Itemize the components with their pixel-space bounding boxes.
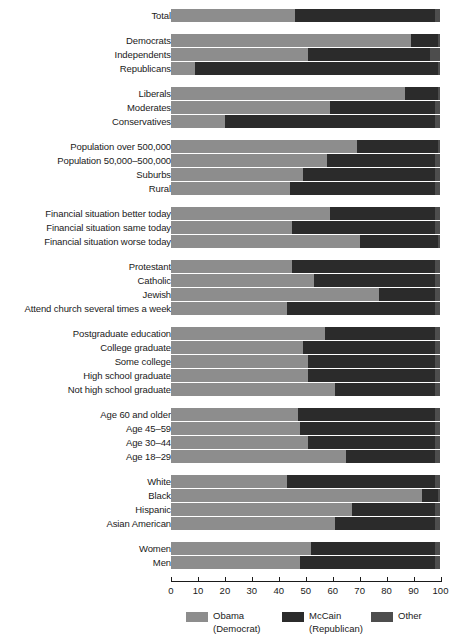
bar-segment-mccain xyxy=(335,517,435,530)
bar-segment-mccain xyxy=(303,341,435,354)
bar-row: Age 18–29 xyxy=(0,450,454,463)
bar-row: Men xyxy=(0,556,454,569)
bar-segment-obama xyxy=(171,101,330,114)
bar-row-label: Financial situation better today xyxy=(45,207,171,220)
bar-group-gender: WomenMen xyxy=(0,542,454,570)
bar-segment-mccain xyxy=(311,542,435,555)
bar-row: Population 50,000–500,000 xyxy=(0,154,454,167)
bar-segment-mccain xyxy=(335,383,435,396)
stacked-bar xyxy=(171,140,441,153)
bar-segment-mccain xyxy=(292,260,435,273)
stacked-bar xyxy=(171,87,441,100)
bar-row-label: White xyxy=(147,475,171,488)
bar-segment-obama xyxy=(171,48,308,61)
legend-label: McCain xyxy=(309,610,341,622)
bar-segment-other xyxy=(435,260,440,273)
bar-segment-obama xyxy=(171,9,295,22)
bar-row: Suburbs xyxy=(0,168,454,181)
bar-row-label: Rural xyxy=(149,182,171,195)
bar-row: Age 30–44 xyxy=(0,436,454,449)
x-axis xyxy=(171,581,441,582)
bar-row-label: Financial situation worse today xyxy=(44,235,171,248)
bar-segment-mccain xyxy=(295,9,435,22)
bar-segment-other xyxy=(435,408,440,421)
bar-segment-obama xyxy=(171,140,357,153)
x-tick-label: 40 xyxy=(264,585,294,596)
x-tick-label: 60 xyxy=(318,585,348,596)
bar-row: Black xyxy=(0,489,454,502)
bar-segment-mccain xyxy=(330,207,435,220)
bar-row: High school graduate xyxy=(0,369,454,382)
bar-segment-obama xyxy=(171,327,325,340)
bar-row-label: Attend church several times a week xyxy=(24,302,171,315)
bar-segment-other xyxy=(438,140,441,153)
stacked-bar xyxy=(171,182,441,195)
stacked-bar xyxy=(171,450,441,463)
bar-row-label: Age 18–29 xyxy=(126,450,171,463)
bar-segment-mccain xyxy=(308,369,435,382)
bar-segment-other xyxy=(435,517,440,530)
legend-label: Obama xyxy=(213,610,244,622)
bar-row-label: High school graduate xyxy=(83,369,171,382)
x-tick-label: 0 xyxy=(156,585,186,596)
x-tick-label: 70 xyxy=(345,585,375,596)
bar-segment-other xyxy=(430,48,441,61)
x-tick-label: 10 xyxy=(183,585,213,596)
bar-segment-obama xyxy=(171,517,335,530)
bar-group-community: Population over 500,000Population 50,000… xyxy=(0,140,454,196)
bar-segment-mccain xyxy=(346,450,435,463)
stacked-bar xyxy=(171,341,441,354)
bar-segment-other xyxy=(435,422,440,435)
stacked-bar xyxy=(171,302,441,315)
bar-segment-obama xyxy=(171,115,225,128)
stacked-bar xyxy=(171,168,441,181)
bar-segment-obama xyxy=(171,274,314,287)
stacked-bar xyxy=(171,422,441,435)
x-tick xyxy=(387,577,388,582)
bar-segment-other xyxy=(435,154,440,167)
bar-row: Protestant xyxy=(0,260,454,273)
bar-segment-mccain xyxy=(195,62,438,75)
bar-row: Independents xyxy=(0,48,454,61)
bar-row-label: College graduate xyxy=(100,341,171,354)
legend-sublabel: (Republican) xyxy=(309,623,363,635)
bar-row-label: Age 60 and older xyxy=(100,408,171,421)
bar-segment-obama xyxy=(171,422,300,435)
stacked-bar xyxy=(171,62,441,75)
x-tick xyxy=(252,577,253,582)
stacked-bar xyxy=(171,327,441,340)
bar-segment-mccain xyxy=(422,489,438,502)
bar-segment-mccain xyxy=(287,475,435,488)
x-tick xyxy=(306,577,307,582)
x-tick xyxy=(360,577,361,582)
bar-row: Republicans xyxy=(0,62,454,75)
bar-row: Financial situation same today xyxy=(0,221,454,234)
stacked-bar xyxy=(171,408,441,421)
stacked-bar xyxy=(171,355,441,368)
bar-segment-obama xyxy=(171,62,195,75)
bar-group-financial: Financial situation better todayFinancia… xyxy=(0,207,454,249)
stacked-bar xyxy=(171,556,441,569)
bar-row: Age 45–59 xyxy=(0,422,454,435)
stacked-bar xyxy=(171,9,441,22)
bar-row: Some college xyxy=(0,355,454,368)
bar-row: Financial situation better today xyxy=(0,207,454,220)
bar-segment-mccain xyxy=(308,48,429,61)
bar-segment-mccain xyxy=(287,302,435,315)
bar-segment-mccain xyxy=(303,168,435,181)
stacked-bar xyxy=(171,383,441,396)
bar-row: Financial situation worse today xyxy=(0,235,454,248)
bar-segment-obama xyxy=(171,207,330,220)
legend-swatch-other xyxy=(371,612,393,622)
bar-segment-mccain xyxy=(352,503,436,516)
bar-segment-mccain xyxy=(325,327,435,340)
bar-group-ideology: LiberalsModeratesConservatives xyxy=(0,87,454,129)
bar-row: Total xyxy=(0,9,454,22)
bar-row: Jewish xyxy=(0,288,454,301)
stacked-bar xyxy=(171,101,441,114)
stacked-bar xyxy=(171,34,441,47)
bar-row-label: Conservatives xyxy=(112,115,171,128)
bar-group-party: DemocratsIndependentsRepublicans xyxy=(0,34,454,76)
legend-swatch-obama xyxy=(186,612,208,622)
bar-segment-obama xyxy=(171,87,405,100)
